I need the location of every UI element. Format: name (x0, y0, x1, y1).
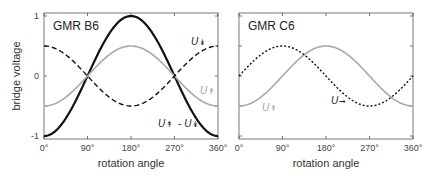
x-tick-label: 0° (40, 143, 49, 153)
series-line (239, 46, 413, 106)
series-label-u-up: U↟ (262, 102, 277, 113)
series-label-u-up: U↟ (200, 85, 215, 96)
y-tick-label: 0 (34, 71, 39, 81)
x-tick-label: 270° (165, 143, 184, 153)
series-label-u-right: U➞ (331, 95, 346, 106)
y-axis-label: bridge voltage (10, 41, 22, 110)
x-tick-label: 90° (81, 143, 95, 153)
x-tick-label: 90° (276, 143, 290, 153)
y-tick-label: 1 (34, 11, 39, 21)
panel-title: GMR B6 (53, 19, 99, 33)
x-tick-label: 360° (209, 143, 228, 153)
chart-figure: 0°90°180°270°360°-101 GMR B6 rotation an… (0, 0, 433, 180)
x-tick-label: 270° (360, 143, 379, 153)
panel-title: GMR C6 (248, 19, 295, 33)
series-label-u-down: U↡ (191, 36, 206, 47)
x-tick-label: 360° (404, 143, 423, 153)
panel-gmr-b6: 0°90°180°270°360°-101 GMR B6 rotation an… (10, 11, 228, 169)
series-line (44, 46, 218, 106)
series-line (44, 16, 218, 136)
series-line (44, 46, 218, 106)
x-axis-label: rotation angle (98, 157, 165, 169)
series-label-difference: U↟ - U↡ (158, 118, 199, 129)
panel-gmr-c6: 0°90°180°270°360° GMR C6 rotation angle … (235, 13, 423, 169)
y-tick-label: -1 (31, 131, 39, 141)
x-axis-label: rotation angle (293, 157, 360, 169)
x-tick-label: 180° (122, 143, 141, 153)
x-tick-label: 180° (317, 143, 336, 153)
x-tick-label: 0° (235, 143, 244, 153)
